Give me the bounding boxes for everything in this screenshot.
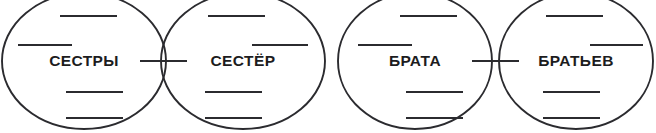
set-label-right-brothers: БРАТЬЕВ xyxy=(538,52,613,69)
set-label-left-brothers: БРАТА xyxy=(389,52,441,69)
venn-group-sisters: СЕСТРЫ СЕСТЁР xyxy=(2,0,325,129)
venn-diagram-worksheet: СЕСТРЫ СЕСТЁР БРАТА БРАТЬЕВ xyxy=(0,0,656,133)
set-label-right-sisters: СЕСТЁР xyxy=(211,52,276,69)
set-label-left-sisters: СЕСТРЫ xyxy=(49,52,119,69)
venn-group-brothers: БРАТА БРАТЬЕВ xyxy=(338,0,653,129)
worksheet-canvas: СЕСТРЫ СЕСТЁР БРАТА БРАТЬЕВ xyxy=(0,0,656,133)
